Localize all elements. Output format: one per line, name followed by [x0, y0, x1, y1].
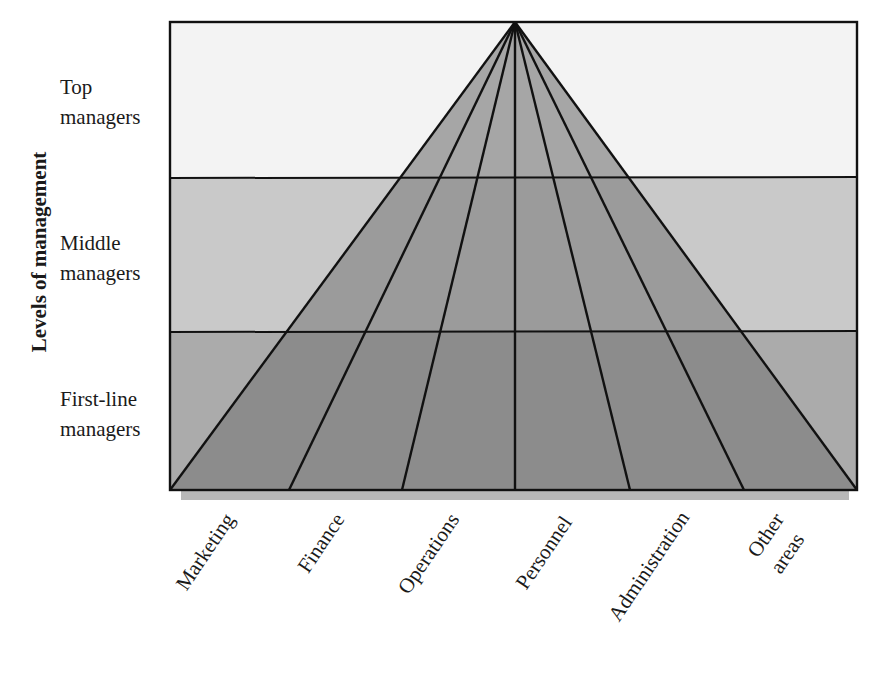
divider-top-middle	[170, 177, 857, 178]
level-label-middle-line1: Middle	[60, 228, 140, 258]
box-shadow	[181, 491, 849, 500]
axis-title-levels: Levels of management	[27, 152, 52, 353]
level-label-top-line2: managers	[60, 102, 140, 132]
level-label-first-line-line1: First-line	[60, 384, 140, 414]
divider-middle-bottom	[170, 331, 857, 332]
level-label-top: Top managers	[60, 72, 140, 132]
level-label-top-line1: Top	[60, 72, 140, 102]
level-label-middle: Middle managers	[60, 228, 140, 288]
level-label-middle-line2: managers	[60, 258, 140, 288]
level-label-first-line: First-line managers	[60, 384, 140, 444]
level-label-first-line-line2: managers	[60, 414, 140, 444]
